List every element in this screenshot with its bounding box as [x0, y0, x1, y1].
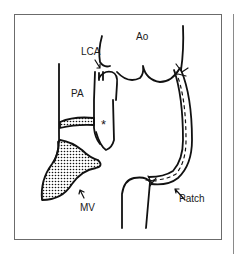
- label-pa: PA: [71, 89, 84, 99]
- mv-outline: [42, 140, 101, 200]
- patch-tube-outer: [151, 26, 192, 184]
- pa-band: [60, 118, 94, 129]
- anatomy-drawing: [0, 0, 239, 254]
- label-ao: Ao: [136, 32, 148, 42]
- label-patch: Patch: [179, 194, 205, 204]
- label-asterisk: *: [101, 118, 106, 131]
- label-mv: MV: [80, 203, 95, 213]
- patch-tube-edge: [149, 70, 183, 177]
- aorta-arcs: [99, 66, 180, 100]
- aorta-top-left: [99, 36, 110, 67]
- mv-arrow: [79, 190, 84, 198]
- label-lca: LCA: [81, 47, 100, 57]
- lower-vessel: [122, 178, 150, 229]
- patch-tube-inner: [153, 72, 186, 180]
